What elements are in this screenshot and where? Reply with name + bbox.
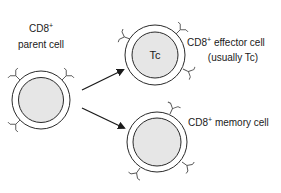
effector-inner-label: Tc [150, 49, 162, 61]
effector-cell: Tc [118, 22, 195, 85]
memory-cell [127, 102, 194, 180]
parent-label-line2: parent cell [18, 39, 64, 50]
parent-label-line1: CD8+ [29, 22, 53, 34]
parent-nucleus [19, 78, 64, 123]
effector-label-line2: (usually Tc) [208, 52, 258, 63]
effector-label-line1: CD8+ effector cell [187, 36, 265, 48]
cd8-differentiation-diagram: CD8+ parent cell Tc CD8+ effector cell (… [0, 0, 281, 193]
arrow-to-effector [82, 70, 123, 90]
memory-nucleus [133, 118, 181, 166]
parent-cell [8, 68, 74, 132]
arrow-to-memory [82, 108, 124, 128]
memory-label: CD8+ memory cell [188, 116, 269, 128]
